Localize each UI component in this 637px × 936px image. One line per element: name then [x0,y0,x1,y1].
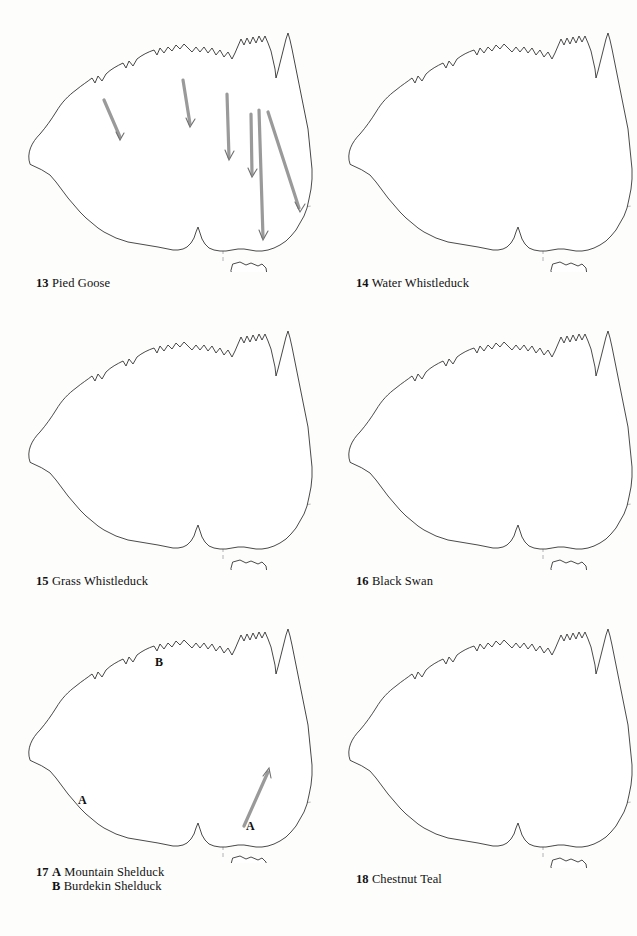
map-15-tasmania [231,560,267,570]
map-14-caption: 14 Water Whistleduck [356,276,637,290]
map-13-svg [18,22,318,272]
map-16-svg [338,320,637,570]
panel-map-13: 13 Pied Goose [18,22,318,290]
panel-map-17: A A B 17 A Mountain Shelduck B Burdekin … [18,618,318,893]
map-13-caption: 13 Pied Goose [36,276,318,290]
panel-map-16: 16 Black Swan [338,320,637,588]
map-17-svg: A A B [18,618,318,863]
map-16-caption: 16 Black Swan [356,574,637,588]
map-18-caption: 18 Chestnut Teal [356,872,637,886]
map-13-caption-text: 13 Pied Goose [36,276,110,290]
map-14-svg [338,22,637,272]
map-18-tasmania [551,858,587,868]
map-16-coastline [349,331,632,549]
map-14-graphic [338,22,637,272]
map-15-coastline [29,331,312,549]
map-17-coastline [29,629,312,847]
map-16-tasmania [551,560,587,570]
map-16-graphic [338,320,637,570]
map-16-caption-text: 16 Black Swan [356,574,433,588]
map-13-tasmania [231,262,267,272]
map-18-caption-text: 18 Chestnut Teal [356,872,442,886]
map-17-caption: 17 A Mountain Shelduck B Burdekin Sheldu… [36,865,318,893]
map-17-graphic: A A B [18,618,318,863]
map-15-caption: 15 Grass Whistleduck [36,574,318,588]
map-15-svg [18,320,318,570]
map-17-tasmania [231,856,267,863]
map-17-caption-line-2: B Burdekin Shelduck [52,879,318,893]
map-17-label-B-north: B [155,655,163,669]
map-15-graphic [18,320,318,570]
panel-map-18: 18 Chestnut Teal [338,618,637,886]
map-17-label-A-southwest: A [78,793,87,807]
map-13-coastline [29,33,312,251]
map-18-coastline [349,629,632,847]
map-15-caption-text: 15 Grass Whistleduck [36,574,148,588]
map-17-caption-line-1: 17 A Mountain Shelduck [36,865,318,879]
map-17-label-A-southeast: A [246,819,255,833]
map-18-svg [338,618,637,868]
panel-map-15: 15 Grass Whistleduck [18,320,318,588]
map-14-coastline [349,33,632,251]
map-18-graphic [338,618,637,868]
map-14-caption-text: 14 Water Whistleduck [356,276,469,290]
map-14-tasmania [551,262,587,272]
panel-map-14: 14 Water Whistleduck [338,22,637,290]
map-13-graphic [18,22,318,272]
